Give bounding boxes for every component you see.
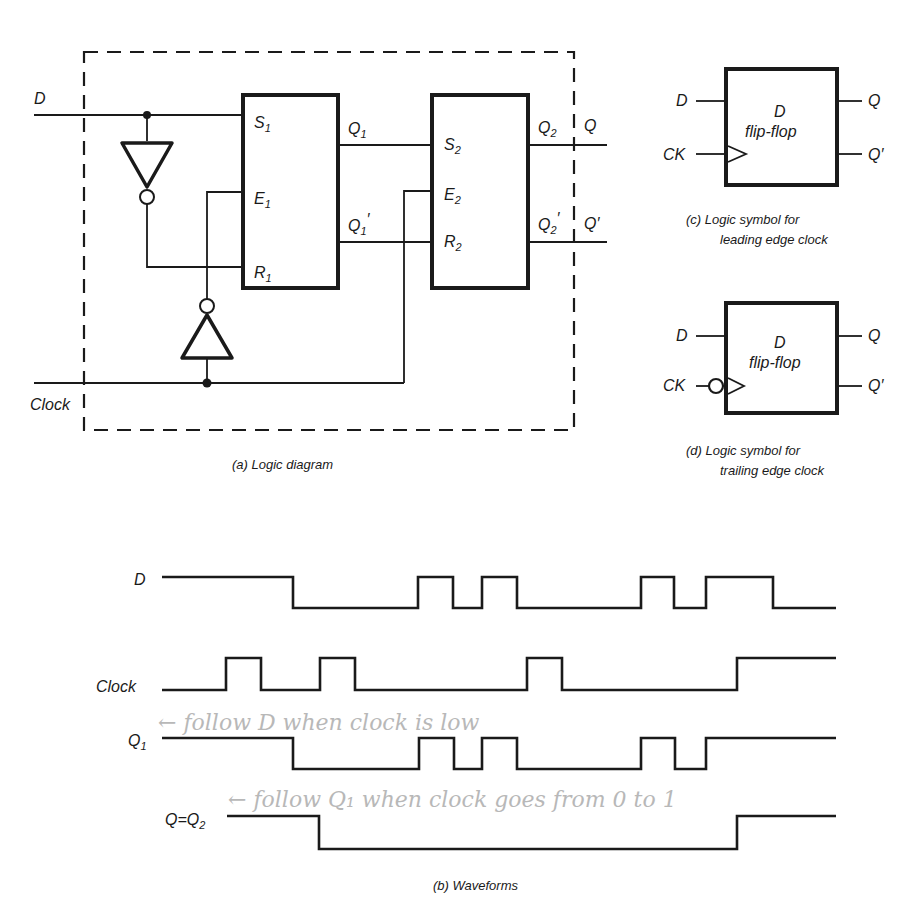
label-q1-prime: Q1′	[348, 211, 371, 237]
symbol-trailing-edge: D flip-flop D CK Q Q′ (d) Logic symbol f…	[663, 303, 884, 478]
waveform-clock	[162, 658, 836, 690]
pin-qn-label: Q′	[868, 146, 884, 163]
waveform-q1	[162, 738, 836, 769]
waveform-d	[162, 577, 836, 608]
pin-ck-label: CK	[663, 146, 687, 163]
caption-logic-diagram: (a) Logic diagram	[232, 457, 333, 472]
negation-bubble-icon	[709, 379, 723, 393]
waveform-q2	[227, 816, 836, 849]
dff-title: D	[774, 334, 786, 351]
caption-d-line1: (d) Logic symbol for	[686, 443, 801, 458]
label-q2-prime: Q2′	[538, 210, 561, 236]
dff-title: D	[774, 103, 786, 120]
caption-c-line2: leading edge clock	[720, 232, 829, 247]
caption-d-line2: trailing edge clock	[720, 463, 826, 478]
handwritten-note-q2: ← follow Q₁ when clock goes from 0 to 1	[228, 787, 677, 812]
wave-label-q1: Q1	[128, 732, 147, 752]
waveforms: D Clock Q1 Q=Q2 ← follow D when clock is…	[96, 571, 836, 893]
pin-ck-label: CK	[663, 377, 687, 394]
pin-d-label: D	[676, 92, 688, 109]
inverter-d-icon	[122, 143, 172, 187]
label-qn-external: Q′	[584, 215, 600, 232]
pin-q-label: Q	[868, 92, 880, 109]
inverter-bubble	[200, 299, 214, 313]
pin-qn-label: Q′	[868, 377, 884, 394]
input-d-label: D	[34, 90, 46, 107]
dff-subtitle: flip-flop	[749, 354, 801, 371]
input-clock-label: Clock	[30, 396, 71, 413]
wave-label-d: D	[134, 571, 146, 588]
wire-inv-to-r1	[147, 204, 243, 267]
label-q-external: Q	[584, 117, 596, 134]
label-q1: Q1	[348, 120, 367, 140]
wave-label-q2: Q=Q2	[165, 811, 205, 831]
symbol-leading-edge: D flip-flop D CK Q Q′ (c) Logic symbol f…	[663, 69, 884, 247]
dff-subtitle: flip-flop	[745, 123, 797, 140]
caption-c-line1: (c) Logic symbol for	[686, 212, 800, 227]
wave-label-clock: Clock	[96, 678, 137, 695]
pin-q-label: Q	[868, 327, 880, 344]
logic-diagram: D Clock S1 E1 R1 Q1 Q1′ S2 E2 R2	[30, 52, 607, 472]
wire-inv-to-e1	[207, 192, 243, 299]
inverter-bubble	[140, 190, 154, 204]
handwritten-note-q1: ← follow D when clock is low	[158, 710, 480, 735]
flip-flop-figure: D Clock S1 E1 R1 Q1 Q1′ S2 E2 R2	[0, 0, 912, 904]
inverter-clock-icon	[182, 315, 232, 358]
caption-waveforms: (b) Waveforms	[433, 878, 518, 893]
pin-d-label: D	[676, 327, 688, 344]
label-q2: Q2	[538, 119, 557, 139]
wire-clock-to-e2	[404, 191, 432, 383]
